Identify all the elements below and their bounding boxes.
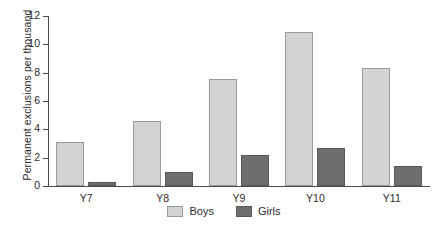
bar-boys-y11 xyxy=(362,68,390,186)
x-axis-line xyxy=(48,186,430,187)
y-axis-tick-label: 10 xyxy=(28,37,40,49)
bars-layer xyxy=(48,16,430,186)
bar-girls-y11 xyxy=(394,166,422,186)
y-axis-tick-label: 8 xyxy=(34,66,40,78)
chart-legend: BoysGirls xyxy=(0,205,448,217)
x-axis-label-y9: Y9 xyxy=(233,192,246,204)
x-axis-label-y7: Y7 xyxy=(80,192,93,204)
y-axis-tick-label: 4 xyxy=(34,122,40,134)
y-axis-tick: 0 xyxy=(43,186,48,187)
bar-chart: Permanent exclusions per thousand 024681… xyxy=(0,0,448,233)
x-axis-label-y8: Y8 xyxy=(156,192,169,204)
bar-boys-y9 xyxy=(209,79,237,186)
bar-boys-y10 xyxy=(285,32,313,186)
legend-label-girls: Girls xyxy=(258,205,281,217)
y-axis-tick-label: 12 xyxy=(28,9,40,21)
x-axis-label-y10: Y10 xyxy=(306,192,325,204)
legend-item-girls: Girls xyxy=(236,205,281,217)
x-axis-label-y11: Y11 xyxy=(383,192,401,204)
y-axis-tick-label: 6 xyxy=(34,94,40,106)
y-axis-tick-label: 0 xyxy=(34,179,40,191)
bar-girls-y8 xyxy=(165,172,193,186)
bar-girls-y7 xyxy=(88,182,116,186)
bar-girls-y9 xyxy=(241,155,269,186)
y-axis-tick-label: 2 xyxy=(34,151,40,163)
legend-label-boys: Boys xyxy=(189,205,213,217)
legend-swatch-boys-icon xyxy=(167,206,183,217)
plot-area: 024681012 Y7Y8Y9Y10Y11 xyxy=(48,16,430,186)
bar-boys-y8 xyxy=(133,121,161,186)
bar-boys-y7 xyxy=(56,142,84,186)
legend-swatch-girls-icon xyxy=(236,206,252,217)
bar-girls-y10 xyxy=(317,148,345,186)
legend-item-boys: Boys xyxy=(167,205,213,217)
